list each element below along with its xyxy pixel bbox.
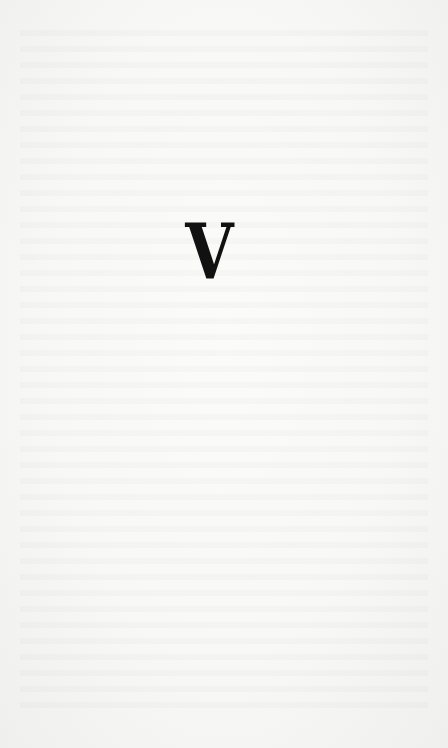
show-through-texture: [20, 30, 428, 718]
book-page: V: [0, 0, 448, 748]
part-numeral: V: [185, 215, 223, 291]
